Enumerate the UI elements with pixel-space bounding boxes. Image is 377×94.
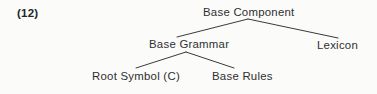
tree-diagram-figure: (12) Base Component Base Grammar Lexicon… <box>0 0 377 94</box>
edge-base-component-to-base-grammar <box>177 19 248 37</box>
tree-node-base-rules: Base Rules <box>212 70 273 83</box>
tree-node-base-grammar: Base Grammar <box>149 38 229 51</box>
tree-node-root-symbol: Root Symbol (C) <box>92 70 180 83</box>
edge-base-grammar-to-root-symbol <box>136 52 186 68</box>
edge-base-grammar-to-base-rules <box>186 52 234 68</box>
edge-base-component-to-lexicon <box>248 19 338 38</box>
tree-node-base-component: Base Component <box>203 6 295 19</box>
tree-node-lexicon: Lexicon <box>317 39 358 52</box>
